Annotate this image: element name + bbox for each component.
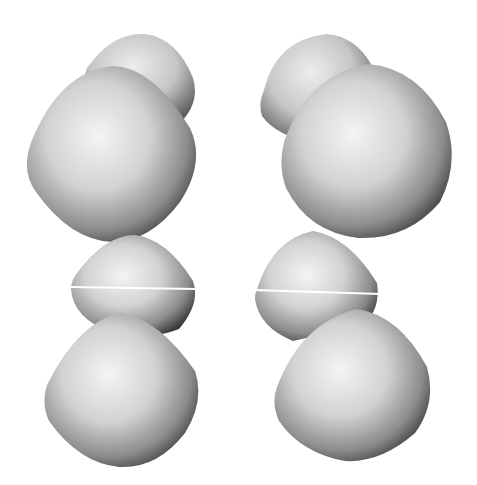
left-bottom-lobe: [39, 311, 203, 469]
right-front-top-lobe: [278, 62, 458, 242]
left-front-top-lobe: [20, 62, 202, 244]
right-bottom-lobe: [271, 307, 435, 463]
